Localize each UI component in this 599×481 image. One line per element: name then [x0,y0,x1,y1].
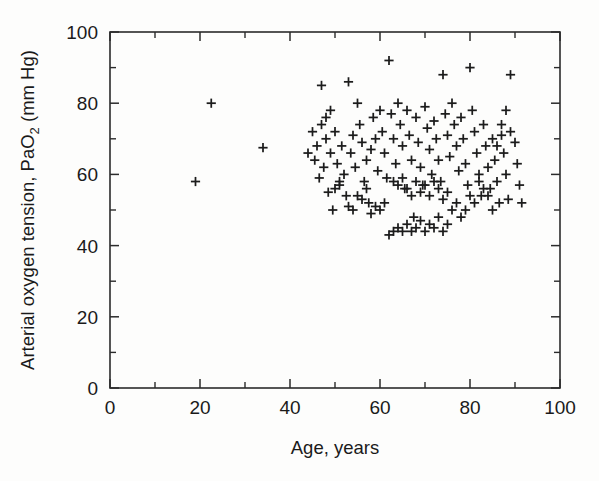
data-point-plus [479,120,488,129]
data-point-plus [488,205,497,214]
data-point-plus [438,195,447,204]
data-point-plus [337,141,346,150]
data-point-plus [506,127,515,136]
y-tick-label: 20 [77,307,98,328]
x-tick-label: 60 [369,397,390,418]
data-point-plus [483,163,492,172]
data-point-plus [434,156,443,165]
data-point-plus [308,127,317,136]
data-point-plus [339,170,348,179]
data-point-plus [315,173,324,182]
data-point-plus [501,170,510,179]
data-point-plus [303,148,312,157]
data-point-plus [398,141,407,150]
data-point-plus [445,152,454,161]
scatter-plot-figure: 020406080100020406080100 Age, yearsArter… [0,0,599,481]
data-point-plus [497,131,506,140]
data-point-plus [461,159,470,168]
data-point-plus [384,56,393,65]
y-tick-label: 0 [87,378,98,399]
data-point-plus [423,124,432,133]
data-point-plus [465,191,474,200]
data-point-plus [362,184,371,193]
data-point-plus [492,141,501,150]
data-point-plus [459,134,468,143]
x-tick-label: 40 [279,397,300,418]
y-axis-title: Arterial oxygen tension, PaO2 (mm Hg) [17,50,42,370]
data-point-plus [317,120,326,129]
data-point-plus [344,77,353,86]
data-point-plus [310,156,319,165]
data-point-plus [429,116,438,125]
data-point-plus [463,180,472,189]
data-point-plus [452,141,461,150]
data-point-plus [472,148,481,157]
data-point-plus [474,177,483,186]
data-point-plus [517,198,526,207]
data-point-plus [488,134,497,143]
data-point-plus [427,170,436,179]
y-tick-label: 60 [77,164,98,185]
data-point-plus [515,180,524,189]
data-point-plus [330,127,339,136]
data-point-plus [432,134,441,143]
data-point-plus [362,156,371,165]
data-point-plus [380,198,389,207]
data-point-plus [447,99,456,108]
data-point-plus [513,159,522,168]
data-point-plus [501,106,510,115]
data-point-plus [407,191,416,200]
data-point-plus [366,145,375,154]
data-point-plus [326,106,335,115]
data-point-plus [429,177,438,186]
data-point-plus [333,159,342,168]
data-point-plus [470,198,479,207]
y-tick-label: 80 [77,93,98,114]
data-point-plus [389,134,398,143]
data-point-plus [346,148,355,157]
data-point-plus [375,106,384,115]
data-point-plus [319,163,328,172]
data-point-plus [360,177,369,186]
data-point-plus [328,205,337,214]
data-point-plus [396,120,405,129]
data-point-plus [499,148,508,157]
data-point-plus [434,184,443,193]
data-point-plus [258,143,267,152]
data-point-plus [495,198,504,207]
data-point-plus [369,113,378,122]
data-point-plus [402,220,411,229]
data-point-plus [443,188,452,197]
x-tick-label: 20 [189,397,210,418]
x-tick-label: 100 [544,397,576,418]
data-point-plus [425,145,434,154]
data-point-plus [357,138,366,147]
data-point-plus [402,106,411,115]
y-tick-label: 40 [77,236,98,257]
data-point-plus [321,134,330,143]
data-point-plus [492,177,501,186]
data-point-plus [510,138,519,147]
data-point-plus [416,163,425,172]
data-point-plus [465,63,474,72]
data-point-plus [479,184,488,193]
data-point-plus [391,159,400,168]
data-point-plus [490,156,499,165]
data-point-plus [425,191,434,200]
data-point-plus [373,166,382,175]
data-point-plus [351,163,360,172]
data-point-plus [191,177,200,186]
data-point-plus [387,109,396,118]
data-point-plus [342,191,351,200]
data-point-plus [438,70,447,79]
data-point-plus [312,141,321,150]
data-point-plus [456,113,465,122]
data-point-plus [456,213,465,222]
data-point-plus [355,120,364,129]
data-point-plus [441,109,450,118]
data-point-plus [461,205,470,214]
data-point-plus [483,191,492,200]
data-point-plus [454,166,463,175]
data-point-plus [420,180,429,189]
data-point-plus [353,99,362,108]
